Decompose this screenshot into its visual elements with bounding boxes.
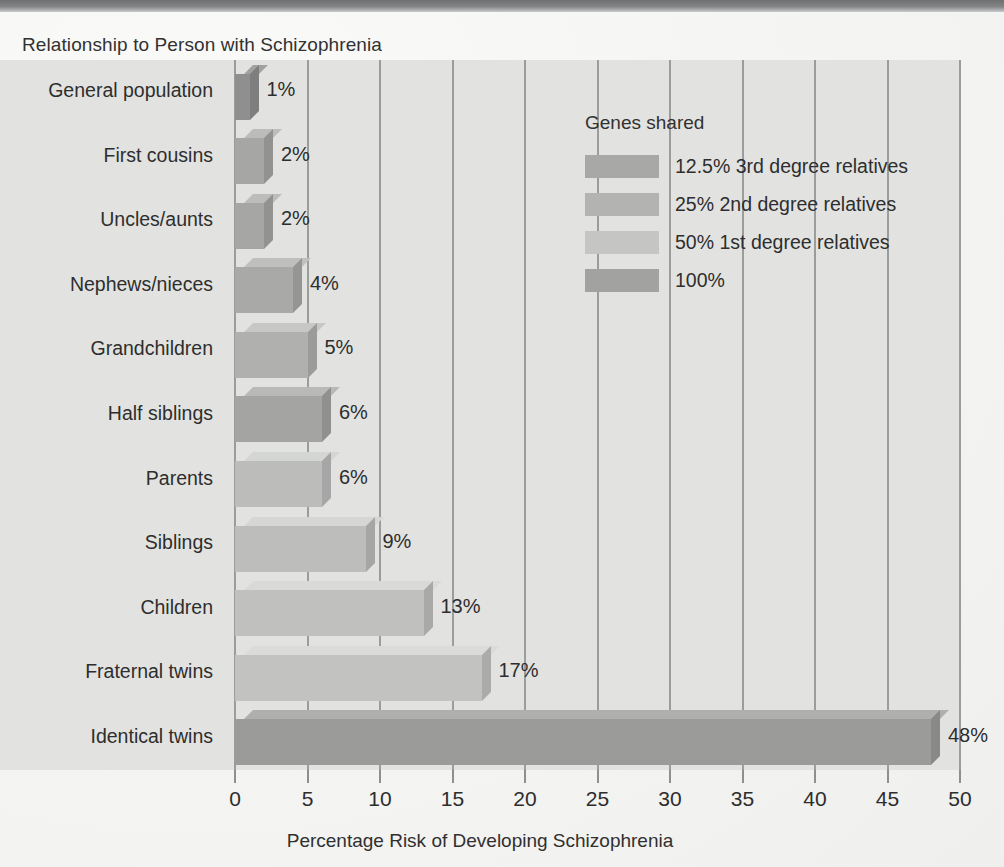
bar-value-label: 2% xyxy=(281,143,310,166)
chart-legend: Genes shared 12.5% 3rd degree relatives2… xyxy=(585,112,945,299)
category-label: Children xyxy=(0,596,213,619)
legend-label: 25% 2nd degree relatives xyxy=(675,193,896,216)
bar-top-face xyxy=(244,129,282,138)
bar-row: Siblings9% xyxy=(0,512,960,577)
bar-side-face xyxy=(308,323,317,378)
category-label: Nephews/nieces xyxy=(0,273,213,296)
bar-front-face xyxy=(235,138,264,184)
x-tick-label-15: 15 xyxy=(441,787,464,811)
bar-top-face xyxy=(244,581,442,590)
legend-item-1: 12.5% 3rd degree relatives xyxy=(585,147,945,185)
legend-swatch xyxy=(585,155,659,178)
category-label: Fraternal twins xyxy=(0,660,213,683)
bar-value-label: 48% xyxy=(948,724,988,747)
bar-value-label: 4% xyxy=(310,272,339,295)
x-tick-label-0: 0 xyxy=(229,787,241,811)
bar-value-label: 2% xyxy=(281,207,310,230)
y-axis-title: Relationship to Person with Schizophreni… xyxy=(22,34,382,56)
bar-top-face xyxy=(244,517,384,526)
category-label: General population xyxy=(0,79,213,102)
bar-row: Children13% xyxy=(0,576,960,641)
x-tick-25 xyxy=(597,770,599,783)
bar-7 xyxy=(235,452,331,507)
category-label: Parents xyxy=(0,467,213,490)
bar-side-face xyxy=(482,646,491,701)
bar-row: Parents6% xyxy=(0,447,960,512)
bar-front-face xyxy=(235,719,931,765)
bar-11 xyxy=(235,710,940,765)
category-label: Grandchildren xyxy=(0,337,213,360)
bar-4 xyxy=(235,258,302,313)
bar-front-face xyxy=(235,461,322,507)
x-axis-title: Percentage Risk of Developing Schizophre… xyxy=(0,830,960,852)
bar-side-face xyxy=(250,65,259,120)
bar-5 xyxy=(235,323,317,378)
x-tick-20 xyxy=(524,770,526,783)
x-tick-label-45: 45 xyxy=(876,787,899,811)
plot-area: General population1%First cousins2%Uncle… xyxy=(0,60,960,770)
x-tick-30 xyxy=(669,770,671,783)
x-tick-10 xyxy=(379,770,381,783)
bar-side-face xyxy=(264,129,273,184)
bar-value-label: 5% xyxy=(325,336,354,359)
x-axis: 05101520253035404550 Percentage Risk of … xyxy=(0,770,1004,867)
x-tick-label-40: 40 xyxy=(803,787,826,811)
x-tick-0 xyxy=(234,770,236,783)
bar-row: Grandchildren5% xyxy=(0,318,960,383)
bar-value-label: 13% xyxy=(441,595,481,618)
x-tick-50 xyxy=(959,770,961,783)
category-label: Siblings xyxy=(0,531,213,554)
legend-swatch xyxy=(585,269,659,292)
x-tick-label-30: 30 xyxy=(658,787,681,811)
bar-side-face xyxy=(424,581,433,636)
x-tick-15 xyxy=(452,770,454,783)
category-label: Identical twins xyxy=(0,725,213,748)
bar-row: Fraternal twins17% xyxy=(0,641,960,706)
legend-label: 50% 1st degree relatives xyxy=(675,231,890,254)
x-tick-45 xyxy=(887,770,889,783)
legend-item-4: 100% xyxy=(585,261,945,299)
bar-side-face xyxy=(264,194,273,249)
bar-value-label: 1% xyxy=(267,78,296,101)
x-tick-label-5: 5 xyxy=(302,787,314,811)
bar-side-face xyxy=(293,258,302,313)
bar-value-label: 6% xyxy=(339,401,368,424)
category-label: Half siblings xyxy=(0,402,213,425)
bar-side-face xyxy=(931,710,940,765)
legend-item-2: 25% 2nd degree relatives xyxy=(585,185,945,223)
bar-top-face xyxy=(244,710,949,719)
bar-3 xyxy=(235,194,273,249)
bar-6 xyxy=(235,387,331,442)
bar-row: Identical twins48% xyxy=(0,705,960,770)
x-tick-35 xyxy=(742,770,744,783)
bar-9 xyxy=(235,581,433,636)
bar-front-face xyxy=(235,526,366,572)
bar-value-label: 9% xyxy=(383,530,412,553)
legend-label: 12.5% 3rd degree relatives xyxy=(675,155,908,178)
bar-side-face xyxy=(322,387,331,442)
bar-2 xyxy=(235,129,273,184)
bar-front-face xyxy=(235,203,264,249)
bar-front-face xyxy=(235,590,424,636)
x-tick-label-10: 10 xyxy=(368,787,391,811)
bar-1 xyxy=(235,65,259,120)
scan-top-band xyxy=(0,0,1004,12)
bar-front-face xyxy=(235,74,250,120)
x-tick-label-35: 35 xyxy=(731,787,754,811)
legend-item-3: 50% 1st degree relatives xyxy=(585,223,945,261)
legend-title: Genes shared xyxy=(585,112,945,134)
bar-value-label: 6% xyxy=(339,466,368,489)
bar-top-face xyxy=(244,646,500,655)
bar-row: Half siblings6% xyxy=(0,383,960,448)
legend-items: 12.5% 3rd degree relatives25% 2nd degree… xyxy=(585,147,945,299)
bar-10 xyxy=(235,646,491,701)
legend-swatch xyxy=(585,231,659,254)
bar-front-face xyxy=(235,267,293,313)
bar-front-face xyxy=(235,332,308,378)
x-tick-label-20: 20 xyxy=(513,787,536,811)
x-tick-label-50: 50 xyxy=(948,787,971,811)
x-tick-40 xyxy=(814,770,816,783)
x-tick-label-25: 25 xyxy=(586,787,609,811)
x-tick-5 xyxy=(307,770,309,783)
bar-value-label: 17% xyxy=(499,659,539,682)
